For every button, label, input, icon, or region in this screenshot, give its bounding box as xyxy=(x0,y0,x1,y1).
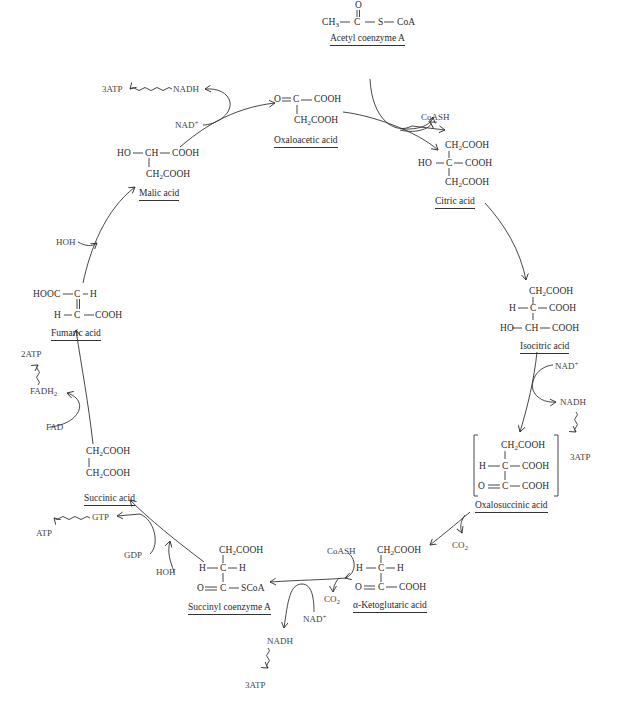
cofactor-co2-oxalo: CO2 xyxy=(452,540,468,551)
atom-c: C xyxy=(530,303,536,314)
atom-c: C xyxy=(220,563,226,574)
atom-ho: HO xyxy=(418,158,432,169)
label-acetyl-coenzyme-a: Acetyl coenzyme A xyxy=(330,33,405,46)
arrow-nad-to-nadh-malic xyxy=(203,89,230,125)
cofactor-2atp: 2ATP xyxy=(21,349,42,360)
atom-cooh: COOH xyxy=(522,481,549,492)
cofactor-nad-keto: NAD+ xyxy=(303,614,326,625)
cofactor-coash-in: CoASH xyxy=(327,546,356,557)
cofactor-fad: FAD xyxy=(46,422,63,433)
atom-o: O xyxy=(478,481,485,492)
atom-ho: HO xyxy=(117,148,131,159)
cofactor-gdp: GDP xyxy=(124,550,142,561)
atom-o: O xyxy=(197,583,204,594)
atom-c: C xyxy=(220,583,226,594)
atom-ch2cooh: CH2COOH xyxy=(146,169,190,180)
label-oxalosuccinic-acid: Oxalosuccinic acid xyxy=(475,500,548,513)
atom-h: H xyxy=(239,563,246,574)
wavy-arrow-gtp-atp xyxy=(54,517,90,520)
atom-c: C xyxy=(354,17,360,28)
wavy-arrow-nadh-atp-malic xyxy=(130,88,172,91)
atom-ho: HO xyxy=(500,323,514,334)
atom-h: H xyxy=(479,461,486,472)
arrow-succinic-to-fumaric xyxy=(76,330,93,444)
atom-ch2cooh: CH2COOH xyxy=(445,177,489,188)
cofactor-co2-keto: CO2 xyxy=(324,594,340,605)
atom-c: C xyxy=(293,94,299,105)
cofactor-nadh-keto: NADH xyxy=(267,636,293,647)
krebs-cycle-diagram: O CH3 C S CoA Acetyl coenzyme A O C COOH… xyxy=(0,0,620,707)
atom-ch: CH xyxy=(145,148,158,159)
label-isocitric-acid: Isocitric acid xyxy=(520,341,569,354)
atom-ch3: CH3 xyxy=(322,17,339,28)
atom-ch2cooh: CH2COOH xyxy=(501,440,545,451)
atom-c: C xyxy=(74,310,80,321)
label-alpha-ketoglutaric-acid: α-Ketoglutaric acid xyxy=(353,600,427,613)
atom-cooh: COOH xyxy=(172,148,199,159)
atom-h: H xyxy=(509,303,516,314)
label-succinic-acid: Succinic acid xyxy=(84,493,135,506)
atom-o: O xyxy=(355,582,362,593)
label-citric-acid: Citric acid xyxy=(435,196,475,209)
arrow-fumaric-to-malic xyxy=(83,187,135,283)
atom-cooh: COOH xyxy=(549,303,576,314)
arrow-nad-to-nadh-iso xyxy=(532,365,556,402)
atom-h: H xyxy=(397,563,404,574)
atom-coa: CoA xyxy=(397,17,415,28)
atom-ch2cooh: CH2COOH xyxy=(86,446,130,457)
cofactor-3atp-malic: 3ATP xyxy=(102,84,123,95)
arrow-co2-out-oxalo xyxy=(461,515,465,533)
wavy-arrow-nadh-atp-iso xyxy=(575,412,578,432)
atom-ch2cooh: CH2COOH xyxy=(294,115,338,126)
arrow-co2-out-keto xyxy=(333,579,338,592)
atom-cooh: COOH xyxy=(522,461,549,472)
cofactor-nadh-iso: NADH xyxy=(560,397,586,408)
atom-c: C xyxy=(502,461,508,472)
wavy-arrow-nadh-atp-keto xyxy=(267,648,270,668)
cofactor-gtp: GTP xyxy=(92,512,109,523)
label-succinyl-coenzyme-a: Succinyl coenzyme A xyxy=(188,602,271,615)
atom-h: H xyxy=(90,289,97,300)
atom-o: O xyxy=(355,0,362,11)
atom-ch2cooh: CH2COOH xyxy=(219,545,263,556)
atom-o: O xyxy=(274,94,281,105)
wavy-arrow-fadh2-atp xyxy=(37,365,40,385)
cofactor-atp-gtp: ATP xyxy=(36,528,52,539)
arrow-gdp-to-gtp xyxy=(117,514,155,554)
cofactor-hoh-succinyl: HOH xyxy=(156,567,176,578)
arrow-ketoglutaric-to-succinylcoa xyxy=(270,578,347,582)
atom-ch2cooh: CH2COOH xyxy=(86,468,130,479)
atom-c: C xyxy=(378,582,384,593)
arrow-citric-to-isocitric xyxy=(485,203,526,280)
label-oxaloacetic-acid: Oxaloacetic acid xyxy=(274,135,338,148)
label-malic-acid: Malic acid xyxy=(139,188,179,201)
atom-c: C xyxy=(446,158,452,169)
atom-cooh: COOH xyxy=(95,310,122,321)
arrow-isocitric-to-oxalosuccinic xyxy=(520,352,537,432)
atom-cooh: COOH xyxy=(465,158,492,169)
atom-cooh: COOH xyxy=(399,582,426,593)
atom-s: S xyxy=(378,17,383,28)
cofactor-nad-iso: NAD+ xyxy=(555,361,578,372)
atom-hooc: HOOC xyxy=(33,289,60,300)
atom-ch2cooh: CH2COOH xyxy=(377,545,421,556)
cofactor-coash-out: CoASH xyxy=(421,112,450,123)
label-fumaric-acid: Fumaric acid xyxy=(51,328,101,341)
atom-ch2cooh: CH2COOH xyxy=(529,286,573,297)
atom-ch: CH xyxy=(525,323,538,334)
atom-scoa: SCoA xyxy=(241,583,265,594)
atom-h: H xyxy=(356,563,363,574)
atom-c: C xyxy=(502,481,508,492)
atom-c: C xyxy=(74,289,80,300)
atom-ch2cooh: CH2COOH xyxy=(445,140,489,151)
atom-cooh: COOH xyxy=(552,323,579,334)
atom-h: H xyxy=(199,563,206,574)
cofactor-nad-malic: NAD+ xyxy=(175,120,198,131)
cofactor-nadh-malic: NADH xyxy=(173,84,199,95)
cofactor-fadh2: FADH2 xyxy=(30,386,57,397)
atom-h: H xyxy=(54,310,61,321)
cofactor-3atp-keto: 3ATP xyxy=(245,680,266,691)
cofactor-3atp-iso: 3ATP xyxy=(570,452,591,463)
bracket-right xyxy=(554,435,558,496)
atom-cooh: COOH xyxy=(314,94,341,105)
